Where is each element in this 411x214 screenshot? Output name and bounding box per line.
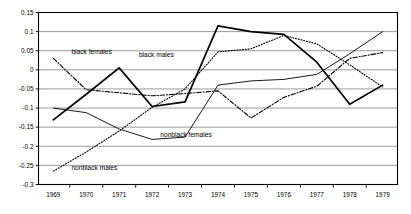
x-tick-label: 1976 — [277, 191, 292, 198]
series-label-nonblack-females: nonblack females — [160, 131, 212, 138]
y-tick-label: 0.1 — [25, 28, 34, 35]
x-tick-label: 1977 — [310, 191, 325, 198]
x-tick-label: 1979 — [376, 191, 391, 198]
x-tick-label: 1974 — [211, 191, 226, 198]
series-label-nonblack-males: nonblack males — [71, 164, 118, 171]
line-chart: 0.150.10.050-0.05-0.1-0.15-0.2-0.25-0.3 … — [0, 0, 411, 214]
y-tick-label: -0.15 — [19, 123, 34, 130]
y-tick-label: 0 — [30, 66, 34, 73]
y-tick-label: 0.05 — [21, 47, 34, 54]
y-tick-label: -0.3 — [22, 181, 33, 188]
x-tick-label: 1971 — [112, 191, 127, 198]
x-tick-label: 1975 — [244, 191, 259, 198]
series-label-black-males: black males — [139, 51, 175, 58]
chart-container: 0.150.10.050-0.05-0.1-0.15-0.2-0.25-0.3 … — [0, 0, 411, 214]
y-tick-label: -0.05 — [19, 85, 34, 92]
series-label-black-females: black females — [71, 48, 112, 55]
y-tick-label: -0.1 — [22, 104, 33, 111]
x-tick-label: 1970 — [79, 191, 94, 198]
chart-background — [0, 0, 411, 214]
x-tick-label: 1972 — [145, 191, 160, 198]
y-tick-label: 0.15 — [21, 9, 34, 16]
x-tick-label: 1978 — [343, 191, 358, 198]
x-tick-label: 1973 — [178, 191, 193, 198]
x-tick-label: 1969 — [46, 191, 61, 198]
y-tick-label: -0.2 — [22, 143, 33, 150]
y-tick-label: -0.25 — [19, 162, 34, 169]
